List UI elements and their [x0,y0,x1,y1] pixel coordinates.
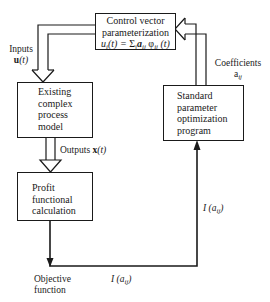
coefficients-label: Coefficients aij [208,58,268,80]
process-box-line-2: complex [38,98,92,110]
i-aij-bottom-label: I (aij) [111,274,132,285]
process-model-box: Existing complex process model [17,82,93,138]
inputs-arrow [32,25,95,82]
optimizer-box-line-1: Standard [177,90,243,102]
process-box-line-3: process [38,109,92,121]
profit-box-line-2: functional [32,194,92,206]
inputs-label: Inputs u(t) [4,44,38,66]
profit-functional-box: Profit functional calculation [17,172,93,221]
objective-function-label: Objective function [34,274,71,296]
optimization-program-box: Standard parameter optimization program [163,85,244,141]
process-box-line-4: model [38,121,92,133]
outputs-label: Outputs x(t) [60,145,106,156]
optimizer-box-line-4: program [177,125,243,137]
control-formula: ui(t) = Σjaij φij (t) [96,38,175,50]
profit-box-line-1: Profit [32,182,92,194]
control-box-line-1: Control vector [96,15,175,27]
control-box-line-2: parameterization [96,27,175,39]
optimizer-arrowhead [194,140,201,150]
control-vector-box: Control vector parameterization ui(t) = … [95,13,176,50]
i-aij-right-label: I (aij) [203,203,224,214]
optimizer-box-line-2: parameter [177,102,243,114]
coefficients-arrow [175,18,206,85]
optimizer-box-line-3: optimization [177,113,243,125]
outputs-arrow [40,137,61,172]
process-box-line-1: Existing [38,86,92,98]
profit-box-line-3: calculation [32,205,92,217]
